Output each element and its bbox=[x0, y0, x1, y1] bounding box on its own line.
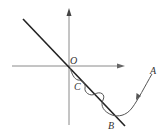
label-point-b: B bbox=[108, 121, 114, 131]
trajectory-curve bbox=[70, 68, 152, 116]
label-point-c: C bbox=[74, 82, 81, 92]
diagram-canvas bbox=[0, 0, 166, 137]
y-axis-arrow-icon bbox=[67, 8, 72, 16]
label-origin: O bbox=[70, 56, 77, 66]
straight-line bbox=[23, 19, 125, 126]
label-point-a: A bbox=[150, 66, 156, 76]
x-axis-arrow-icon bbox=[117, 64, 125, 69]
